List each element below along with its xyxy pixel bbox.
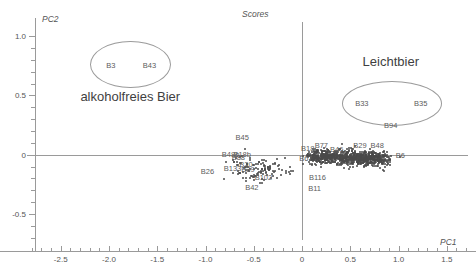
group-ellipse-alkoholfreies-bier	[90, 41, 171, 88]
point-label: B6	[396, 150, 405, 159]
cluster-point	[354, 158, 356, 160]
cluster-point	[331, 160, 333, 162]
cluster-point	[349, 154, 351, 156]
point-label: B3	[106, 60, 115, 69]
y-tick-major	[29, 36, 35, 37]
y-axis-title: PC2	[42, 14, 59, 24]
x-tick-minor	[80, 248, 81, 251]
cluster-point	[276, 158, 278, 160]
x-tick-minor	[360, 248, 361, 251]
cluster-point	[356, 155, 358, 157]
point-label: B18	[301, 143, 314, 152]
x-tick-minor	[341, 248, 342, 251]
x-tick-major	[254, 246, 255, 251]
cluster-point	[242, 177, 244, 179]
x-tick-label: 1.0	[393, 255, 404, 264]
x-tick-minor	[437, 248, 438, 251]
cluster-point	[384, 155, 386, 157]
point-label: B67	[299, 154, 312, 163]
cluster-point	[354, 150, 356, 152]
cluster-point	[343, 157, 345, 159]
x-ruler-line	[0, 251, 476, 252]
x-tick-minor	[283, 248, 284, 251]
y-tick-minor	[31, 190, 35, 191]
x-tick-minor	[148, 248, 149, 251]
point-label: B42	[245, 182, 258, 191]
y-tick-minor	[31, 202, 35, 203]
y-tick-label: 1.0	[0, 32, 26, 41]
point-label: B46	[330, 144, 343, 153]
y-tick-minor	[31, 178, 35, 179]
cluster-point	[336, 164, 338, 166]
x-tick-minor	[234, 248, 235, 251]
x-tick-minor	[225, 248, 226, 251]
cluster-point	[348, 168, 350, 170]
cluster-point	[381, 162, 383, 164]
cluster-point	[273, 171, 275, 173]
point-label: B48	[371, 141, 384, 150]
y-tick-minor	[31, 107, 35, 108]
point-label: B133	[224, 163, 242, 172]
x-tick-minor	[466, 248, 467, 251]
y-tick-label: 0.5	[0, 91, 26, 100]
cluster-point	[314, 163, 316, 165]
cluster-point	[320, 163, 322, 165]
cluster-point	[343, 167, 345, 169]
cluster-point	[380, 158, 382, 160]
x-tick-label: -1.5	[150, 255, 164, 264]
point-label: B35	[414, 98, 427, 107]
x-tick-minor	[99, 248, 100, 251]
y-ruler-line	[35, 18, 36, 251]
cluster-point	[318, 160, 320, 162]
cluster-point	[351, 163, 353, 165]
y-tick-minor	[31, 143, 35, 144]
x-tick-minor	[418, 248, 419, 251]
cluster-point	[329, 157, 331, 159]
y-tick-minor	[31, 167, 35, 168]
cluster-point	[382, 155, 384, 157]
cluster-point	[321, 153, 323, 155]
x-tick-minor	[331, 248, 332, 251]
cluster-point	[362, 154, 364, 156]
cluster-point	[326, 151, 328, 153]
x-tick-minor	[128, 248, 129, 251]
cluster-point	[320, 166, 322, 168]
cluster-point	[272, 175, 274, 177]
y-tick-minor	[31, 84, 35, 85]
y-tick-minor	[31, 226, 35, 227]
cluster-point	[343, 161, 345, 163]
cluster-point	[262, 162, 264, 164]
cluster-point	[312, 157, 314, 159]
point-label: B116	[309, 173, 326, 182]
cluster-point	[277, 165, 279, 167]
cluster-point	[374, 161, 376, 163]
group-label-2: Leichtbier	[363, 54, 419, 69]
y-tick-minor	[31, 238, 35, 239]
x-tick-minor	[215, 248, 216, 251]
cluster-point	[347, 152, 349, 154]
y-tick-minor	[31, 131, 35, 132]
x-tick-major	[61, 246, 62, 251]
cluster-point	[223, 178, 225, 180]
cluster-point	[357, 162, 359, 164]
cluster-point	[289, 166, 291, 168]
cluster-point	[324, 159, 326, 161]
x-tick-minor	[321, 248, 322, 251]
cluster-point	[258, 161, 260, 163]
cluster-point	[388, 158, 390, 160]
cluster-point	[364, 159, 366, 161]
cluster-point	[342, 153, 344, 155]
point-label: B26	[201, 167, 214, 176]
cluster-point	[386, 151, 388, 153]
cluster-point	[387, 163, 389, 165]
cluster-point	[264, 167, 266, 169]
cluster-point	[281, 169, 283, 171]
cluster-point	[255, 163, 257, 165]
x-tick-minor	[370, 248, 371, 251]
cluster-point	[341, 160, 343, 162]
x-tick-minor	[41, 248, 42, 251]
x-tick-minor	[186, 248, 187, 251]
y-tick-minor	[31, 72, 35, 73]
cluster-point	[311, 163, 313, 165]
